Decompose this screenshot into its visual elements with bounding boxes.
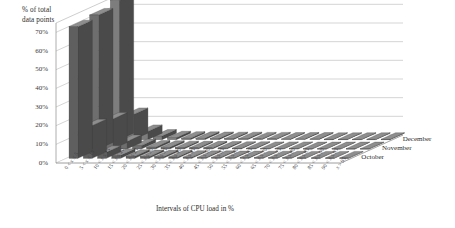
- legend-item-october: October: [361, 153, 384, 161]
- x-axis-tick-label: x > 95: [334, 156, 347, 171]
- x-axis-tick-labels: 0 < x ≤ 55 < x ≤ 1010 < x ≤ 1515 < x ≤ 2…: [0, 0, 455, 228]
- chart-container: % of total data points 0%10%20%30%40%50%…: [0, 0, 455, 228]
- legend-item-november: November: [382, 144, 412, 152]
- legend-item-december: December: [403, 135, 432, 143]
- x-axis-title: Intervals of CPU load in %: [105, 205, 285, 213]
- x-axis-tick-label: 0 < x ≤ 5: [63, 151, 79, 170]
